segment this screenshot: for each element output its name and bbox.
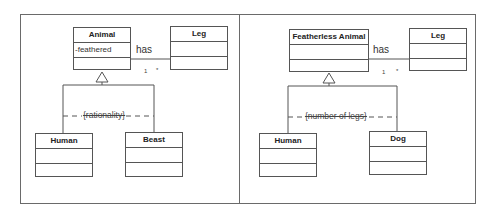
- class-operations: [370, 162, 426, 175]
- multiplicity-source-left: 1: [144, 68, 147, 74]
- multiplicity-target-right: *: [396, 68, 398, 74]
- class-attributes: [126, 148, 182, 163]
- generalization-constraint-right: {number of legs}: [304, 111, 368, 121]
- class-leg-left: Leg: [170, 26, 228, 70]
- class-name: Leg: [410, 29, 466, 44]
- class-attributes: [290, 45, 368, 60]
- association-label-right: has: [373, 44, 389, 55]
- multiplicity-target-left: *: [156, 67, 158, 73]
- class-human-left: Human: [35, 133, 93, 177]
- class-human-right: Human: [259, 133, 317, 177]
- class-operations: [410, 59, 466, 72]
- class-attribute: -feathered: [74, 43, 130, 58]
- class-dog: Dog: [369, 131, 427, 175]
- class-operations: [171, 57, 227, 70]
- class-name: Human: [36, 134, 92, 149]
- generalization-arrow-left: [96, 72, 108, 82]
- class-attributes: [410, 44, 466, 59]
- class-attributes: [370, 147, 426, 162]
- class-attributes: [260, 149, 316, 164]
- class-beast: Beast: [125, 132, 183, 177]
- class-operations: [290, 60, 368, 73]
- class-name: Dog: [370, 132, 426, 147]
- generalization-arrow-right: [323, 73, 335, 83]
- association-label-left: has: [136, 44, 152, 55]
- class-leg-right: Leg: [409, 28, 467, 71]
- class-attributes: [36, 149, 92, 164]
- class-animal: Animal -feathered: [73, 27, 131, 70]
- class-name: Featherless Animal: [290, 30, 368, 45]
- class-attributes: [171, 42, 227, 57]
- class-name: Human: [260, 134, 316, 149]
- class-name: Animal: [74, 28, 130, 43]
- class-featherless-animal: Featherless Animal: [289, 29, 369, 72]
- multiplicity-source-right: 1: [382, 69, 385, 75]
- class-name: Leg: [171, 27, 227, 42]
- class-name: Beast: [126, 133, 182, 148]
- class-operations: [74, 58, 130, 71]
- class-operations: [126, 163, 182, 176]
- class-operations: [36, 164, 92, 177]
- generalization-constraint-left: {rationality}: [82, 110, 126, 120]
- class-operations: [260, 164, 316, 177]
